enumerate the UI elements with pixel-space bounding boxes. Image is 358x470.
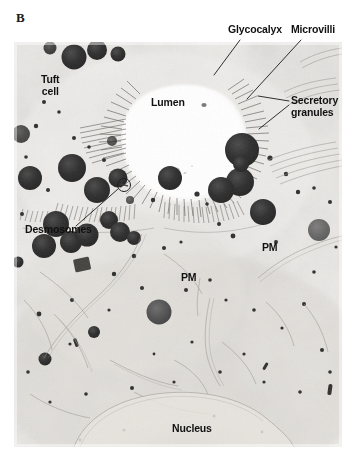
label-secretory-granules: Secretory granules bbox=[291, 94, 338, 118]
label-lumen: Lumen bbox=[151, 97, 185, 109]
label-tuft-cell: Tuft cell bbox=[41, 74, 59, 97]
label-glycocalyx: Glycocalyx bbox=[228, 24, 282, 36]
label-microvilli: Microvilli bbox=[291, 24, 335, 36]
label-desmosomes: Desmosomes bbox=[25, 224, 92, 236]
label-pm-left: PM bbox=[181, 272, 196, 284]
panel-letter: B bbox=[16, 10, 25, 26]
label-nucleus: Nucleus bbox=[172, 423, 212, 435]
figure-panel: B bbox=[0, 0, 358, 470]
label-pm-right: PM bbox=[262, 242, 277, 254]
